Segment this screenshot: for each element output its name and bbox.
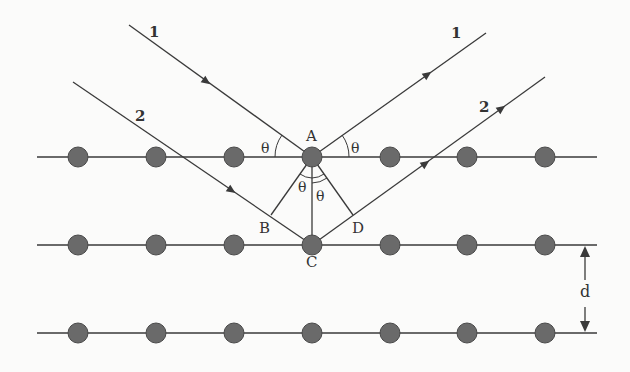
atom [535,323,555,343]
ray-1-incident [129,25,312,157]
atom [68,235,88,255]
ray-arrows [201,69,508,197]
label-point-a: A [305,127,317,145]
atom [302,323,322,343]
arrow-down-icon [580,321,590,332]
label-ray-1-out: 1 [451,24,461,42]
atom [146,235,166,255]
line-a-d [312,157,353,215]
label-theta-ab: θ [298,179,306,195]
arc-theta-ab [300,174,312,178]
labels: 1 2 1 2 A B C D θ θ θ θ d [135,23,590,301]
atom [224,235,244,255]
atom [146,147,166,167]
label-theta-left: θ [261,140,269,156]
arc-theta-ad [312,174,324,178]
arrow-icon [496,102,508,114]
atom [457,147,477,167]
atom [380,235,400,255]
label-spacing-d: d [580,282,590,301]
ray-2-incident [73,82,312,245]
label-point-b: B [259,219,270,237]
atom [535,147,555,167]
atom [457,235,477,255]
atom [457,323,477,343]
arrow-icon [422,69,434,81]
label-point-d: D [352,219,364,237]
arrow-up-icon [580,246,590,257]
label-ray-1-in: 1 [149,23,159,41]
atom [224,147,244,167]
bragg-diagram: 1 2 1 2 A B C D θ θ θ θ d [0,0,630,372]
atom [380,323,400,343]
atom [380,147,400,167]
arc-theta-ad-outer [312,178,327,183]
atom [68,323,88,343]
label-theta-right: θ [351,140,359,156]
label-ray-2-out: 2 [479,98,489,116]
label-ray-2-in: 2 [135,107,145,125]
arc-theta-left [275,135,282,157]
atom-a [302,147,322,167]
label-theta-ad: θ [316,188,324,204]
atom [68,147,88,167]
atom [224,323,244,343]
arrow-icon [226,185,238,197]
arc-theta-right [342,135,349,157]
atom [146,323,166,343]
atom-c [302,235,322,255]
atom [535,235,555,255]
label-point-c: C [306,253,317,271]
